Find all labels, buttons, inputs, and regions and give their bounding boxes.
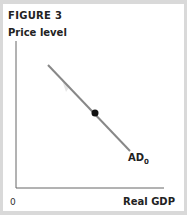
curve-label-subscript: 0 (144, 158, 149, 166)
curve-label: AD0 (128, 152, 149, 166)
ad-curve (48, 65, 130, 151)
diagram-plot (0, 0, 187, 215)
origin-label: 0 (10, 197, 16, 207)
x-axis-label: Real GDP (123, 196, 175, 207)
equilibrium-point (92, 110, 99, 117)
curve-label-name: AD (128, 152, 144, 163)
